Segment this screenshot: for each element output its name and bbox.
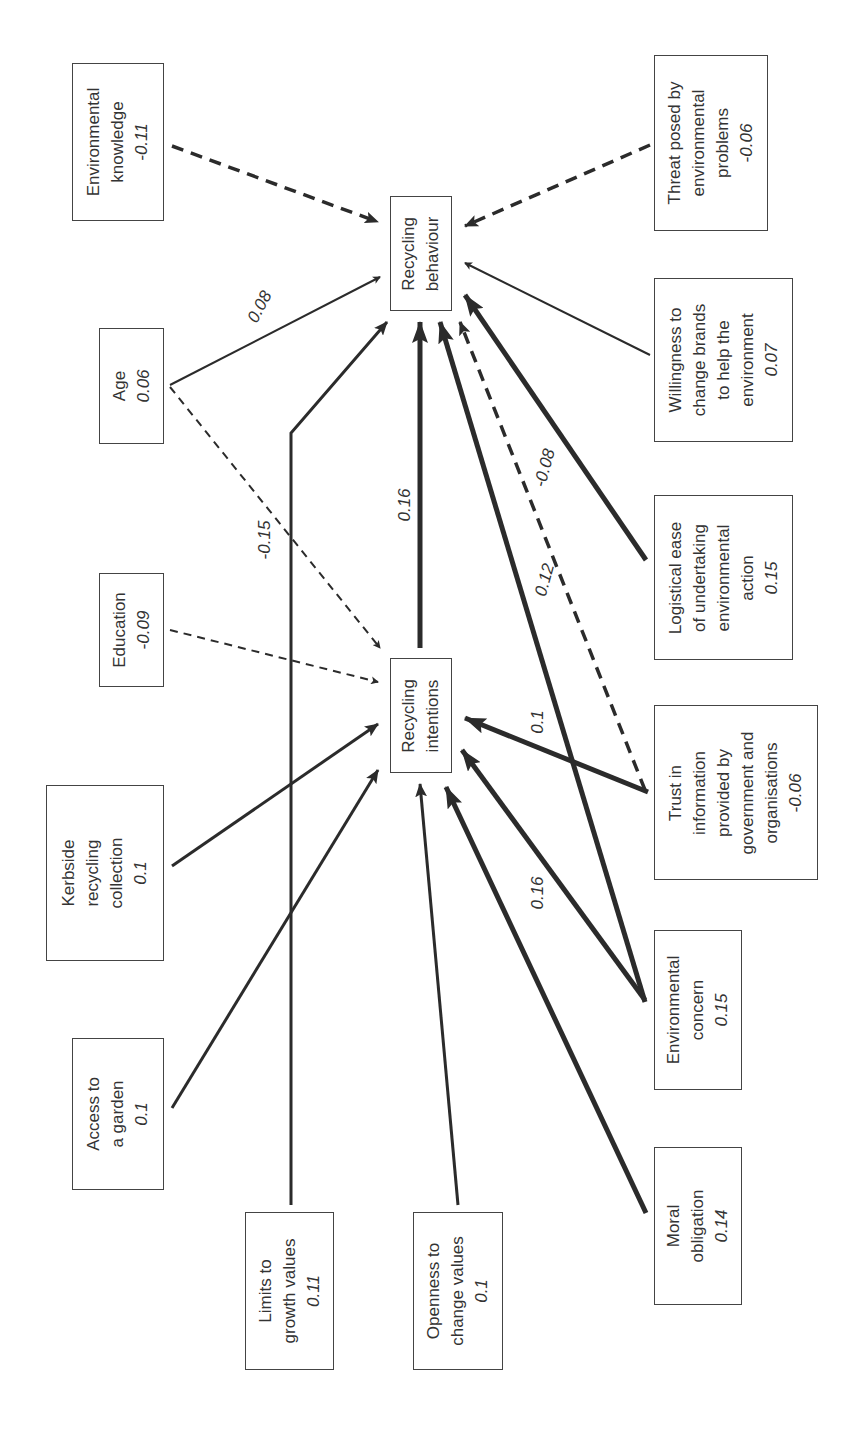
edge-kerbside-intentions (172, 724, 378, 866)
node-label: Moral (662, 1190, 686, 1263)
node-label: recycling (81, 838, 105, 909)
edge-willingness-behaviour (465, 263, 650, 355)
node-value: -0.09 (132, 592, 156, 668)
node-value: -0.06 (784, 731, 808, 854)
edge-envknowledge-behaviour (172, 146, 378, 222)
edge-age-intentions (170, 387, 380, 648)
node-value: 0.15 (710, 956, 734, 1065)
node-label: information (688, 731, 712, 854)
node-environmental-concern: Environmental concern 0.15 (654, 930, 742, 1090)
node-label: collection (105, 838, 129, 909)
edge-garden-intentions (172, 770, 378, 1108)
node-value: 0.14 (710, 1190, 734, 1263)
node-label: government and (736, 731, 760, 854)
node-access-to-garden: Access to a garden 0.1 (72, 1038, 164, 1190)
node-value: 0.1 (130, 1077, 154, 1151)
path-diagram: 0.08 -0.15 0.16 0.12 -0.08 0.1 0.16 Envi… (0, 0, 846, 1455)
node-label: change brands (688, 304, 712, 416)
node-label: problems (711, 82, 735, 205)
node-value: -0.11 (130, 88, 154, 197)
node-label: knowledge (106, 88, 130, 197)
node-value: -0.06 (735, 82, 759, 205)
node-label: Kerbside (57, 838, 81, 909)
node-openness-to-change: Openness to change values 0.1 (413, 1212, 503, 1370)
node-label: provided by (712, 731, 736, 854)
node-label: Environmental (82, 88, 106, 197)
node-label: intentions (421, 679, 445, 753)
node-limits-to-growth: Limits to growth values 0.11 (245, 1212, 334, 1370)
node-label: behaviour (421, 216, 445, 291)
edge-openness-intentions (420, 784, 458, 1205)
node-label: Recycling (397, 679, 421, 753)
node-label: Limits to (254, 1239, 278, 1344)
edge-limits-behaviour (291, 322, 387, 1205)
edge-education-intentions (170, 630, 378, 682)
node-recycling-behaviour: Recycling behaviour (390, 196, 452, 311)
node-environmental-knowledge: Environmental knowledge -0.11 (72, 63, 164, 221)
node-label: Openness to (422, 1236, 446, 1346)
node-trust: Trust in information provided by governm… (654, 705, 818, 880)
node-kerbside: Kerbside recycling collection 0.1 (46, 785, 164, 961)
node-recycling-intentions: Recycling intentions (390, 658, 452, 773)
node-label: of undertaking (688, 521, 712, 633)
node-value: 0.11 (302, 1239, 326, 1344)
node-label: a garden (106, 1077, 130, 1151)
node-label: action (736, 521, 760, 633)
node-label: Trust in (664, 731, 688, 854)
node-value: 0.07 (760, 304, 784, 416)
node-label: Environmental (662, 956, 686, 1065)
node-threat: Threat posed by environmental problems -… (654, 55, 768, 231)
node-label: Age (108, 369, 132, 402)
node-label: environmental (712, 521, 736, 633)
node-value: 0.1 (129, 838, 153, 909)
node-label: Threat posed by (663, 82, 687, 205)
edge-label-trust-intentions: 0.1 (528, 710, 548, 734)
node-label: environment (736, 304, 760, 416)
node-label: environmental (687, 82, 711, 205)
node-value: 0.06 (132, 369, 156, 402)
edge-label-intentions-behaviour: 0.16 (395, 488, 415, 521)
node-education: Education -0.09 (99, 573, 164, 687)
node-label: Education (108, 592, 132, 668)
edge-moral-intentions (446, 787, 646, 1213)
node-label: growth values (278, 1239, 302, 1344)
node-label: Access to (82, 1077, 106, 1151)
node-label: to help the (712, 304, 736, 416)
node-age: Age 0.06 (99, 328, 164, 444)
node-label: Recycling (397, 216, 421, 291)
node-moral-obligation: Moral obligation 0.14 (654, 1147, 742, 1305)
node-logistical-ease: Logistical ease of undertaking environme… (654, 495, 793, 660)
node-label: Logistical ease (664, 521, 688, 633)
node-label: Willingness to (664, 304, 688, 416)
node-label: obligation (686, 1190, 710, 1263)
node-value: 0.15 (760, 521, 784, 633)
node-willingness: Willingness to change brands to help the… (654, 278, 793, 442)
edge-trust-behaviour (460, 322, 645, 790)
node-value: 0.1 (470, 1236, 494, 1346)
edge-label-age-intentions: -0.15 (255, 521, 275, 560)
edge-logistical-behaviour (465, 295, 646, 560)
node-label: concern (686, 956, 710, 1065)
node-label: organisations (760, 731, 784, 854)
edge-threat-behaviour (465, 145, 650, 226)
node-label: change values (446, 1236, 470, 1346)
edge-label-moral-intentions: 0.16 (528, 876, 548, 909)
